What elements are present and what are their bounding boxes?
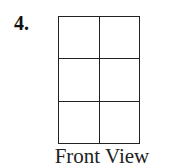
row-divider-2 [59,101,139,102]
problem-number: 4. [14,13,29,33]
column-divider [99,17,100,143]
row-divider-1 [59,58,139,59]
view-label: Front View [46,146,158,167]
front-view-grid [58,16,140,144]
